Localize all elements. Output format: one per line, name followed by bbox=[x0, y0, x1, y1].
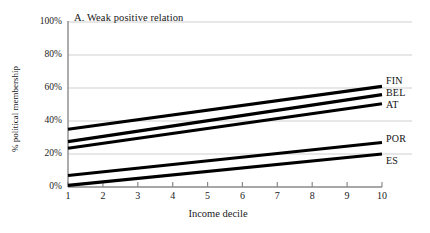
panel-title: A. Weak positive relation bbox=[74, 12, 183, 23]
y-tick-label-20: 20% bbox=[28, 148, 62, 158]
y-tick-label-40: 40% bbox=[28, 115, 62, 125]
x-tick-label-9: 9 bbox=[337, 190, 357, 201]
y-tick-label-60: 60% bbox=[28, 82, 62, 92]
series-line-bel bbox=[68, 95, 382, 142]
x-tick-label-5: 5 bbox=[198, 190, 218, 201]
series-label-bel: BEL bbox=[386, 87, 406, 98]
y-tick-label-0: 0% bbox=[28, 181, 62, 191]
x-tick-label-6: 6 bbox=[232, 190, 252, 201]
x-tick-label-3: 3 bbox=[128, 190, 148, 201]
chart-figure: A. Weak positive relation % political me… bbox=[0, 0, 430, 233]
series-label-por: POR bbox=[386, 133, 406, 144]
y-tick-label-80: 80% bbox=[28, 49, 62, 59]
x-tick-label-2: 2 bbox=[93, 190, 113, 201]
x-tick-label-8: 8 bbox=[302, 190, 322, 201]
series-label-es: ES bbox=[386, 155, 398, 166]
series-line-fin bbox=[68, 86, 382, 129]
series-lines bbox=[68, 86, 382, 185]
series-label-at: AT bbox=[386, 99, 399, 110]
series-label-fin: FIN bbox=[386, 75, 403, 86]
x-tick-label-1: 1 bbox=[58, 190, 78, 201]
y-axis-title: % political membership bbox=[10, 34, 20, 184]
series-line-at bbox=[68, 104, 382, 149]
x-tick-label-7: 7 bbox=[267, 190, 287, 201]
x-tick-label-4: 4 bbox=[163, 190, 183, 201]
x-axis-ticks bbox=[68, 182, 382, 187]
x-tick-label-10: 10 bbox=[372, 190, 392, 201]
y-tick-label-100: 100% bbox=[28, 16, 62, 26]
axis-lines bbox=[68, 21, 382, 187]
x-axis-title: Income decile bbox=[68, 208, 368, 219]
